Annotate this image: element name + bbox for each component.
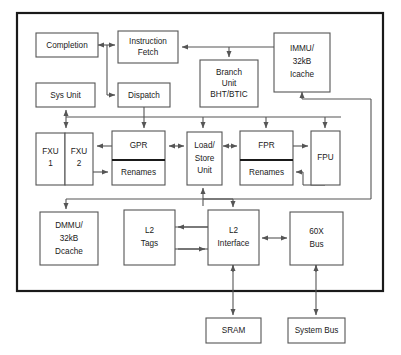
block-immu-label-2: 32kB (293, 57, 312, 66)
block-dmmu-label-3: Dcache (55, 247, 83, 256)
block-dmmu-label-2: 32kB (60, 234, 79, 243)
block-gpr-label: GPR (130, 141, 148, 150)
block-fxu-1[interactable]: FXU 1 (36, 133, 65, 185)
block-instruction-fetch-label-2: Fetch (138, 48, 159, 57)
block-gpr-renames-label: Renames (121, 168, 156, 177)
block-l2-tags-label-1: L2 (145, 226, 155, 235)
block-branch-unit-label-2: Unit (222, 79, 237, 88)
block-diagram-canvas: Completion Instruction Fetch Branch Unit… (0, 0, 401, 355)
block-instruction-fetch[interactable]: Instruction Fetch (118, 31, 178, 63)
block-branch-unit-label-3: BHT/BTIC (210, 90, 247, 99)
block-completion[interactable]: Completion (36, 33, 98, 57)
block-system-bus[interactable]: System Bus (288, 318, 345, 343)
block-branch-unit-label-1: Branch (216, 68, 242, 77)
block-sys-unit[interactable]: Sys Unit (36, 83, 95, 107)
block-immu-icache[interactable]: IMMU/ 32kB Icache (274, 33, 330, 92)
block-dispatch[interactable]: Dispatch (118, 83, 170, 107)
block-fxu2-label-2: 2 (77, 159, 82, 168)
block-l2-tags-label-2: Tags (141, 239, 158, 248)
block-fpu-label: FPU (317, 153, 333, 162)
block-fpr-label: FPR (258, 141, 274, 150)
block-system-bus-label: System Bus (295, 326, 339, 335)
block-lsu-label-3: Unit (197, 166, 212, 175)
block-60x-bus[interactable]: 60X Bus (290, 212, 343, 265)
block-lsu-label-1: Load/ (194, 141, 215, 150)
block-fpr-renames-label: Renames (249, 168, 284, 177)
block-60x-bus-label-2: Bus (309, 240, 323, 249)
processor-block-diagram: Completion Instruction Fetch Branch Unit… (0, 0, 401, 355)
block-branch-unit[interactable]: Branch Unit BHT/BTIC (200, 60, 258, 107)
block-dispatch-label: Dispatch (128, 91, 160, 100)
block-fxu1-label-1: FXU (42, 147, 58, 156)
block-immu-label-1: IMMU/ (290, 44, 315, 53)
block-fpu[interactable]: FPU (311, 131, 340, 185)
block-sram[interactable]: SRAM (206, 318, 261, 343)
block-dmmu-label-1: DMMU/ (55, 221, 83, 230)
block-lsu-label-2: Store (195, 154, 215, 163)
block-l2-tags[interactable]: L2 Tags (124, 210, 175, 265)
block-gpr[interactable]: GPR Renames (112, 131, 165, 185)
block-l2-interface[interactable]: L2 Interface (208, 210, 259, 265)
block-l2-interface-label-2: Interface (218, 239, 250, 248)
block-immu-label-3: Icache (290, 70, 315, 79)
block-dmmu-dcache[interactable]: DMMU/ 32kB Dcache (40, 212, 98, 265)
block-sys-unit-label: Sys Unit (50, 91, 81, 100)
block-l2-interface-label-1: L2 (229, 226, 239, 235)
block-load-store-unit[interactable]: Load/ Store Unit (187, 132, 222, 185)
block-60x-bus-label-1: 60X (309, 227, 324, 236)
block-fxu1-label-2: 1 (48, 159, 53, 168)
block-fxu-2[interactable]: FXU 2 (65, 133, 93, 185)
block-sram-label: SRAM (222, 326, 246, 335)
block-fxu2-label-1: FXU (71, 147, 87, 156)
block-fpr[interactable]: FPR Renames (240, 131, 293, 185)
block-instruction-fetch-label-1: Instruction (129, 37, 167, 46)
block-completion-label: Completion (46, 41, 88, 50)
